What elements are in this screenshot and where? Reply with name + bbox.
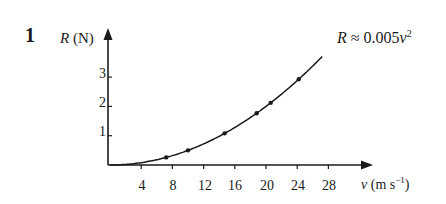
data-points — [164, 77, 301, 160]
data-point — [297, 77, 301, 81]
fit-curve — [110, 57, 322, 165]
x-axis-arrow-icon — [361, 161, 373, 170]
chart-plot-area — [0, 0, 446, 204]
data-point — [222, 131, 226, 135]
axis-ticks — [108, 77, 328, 169]
data-point — [186, 148, 190, 152]
data-point — [254, 111, 258, 115]
data-point — [164, 155, 168, 159]
data-point — [268, 101, 272, 105]
y-axis-arrow-icon — [104, 28, 113, 40]
